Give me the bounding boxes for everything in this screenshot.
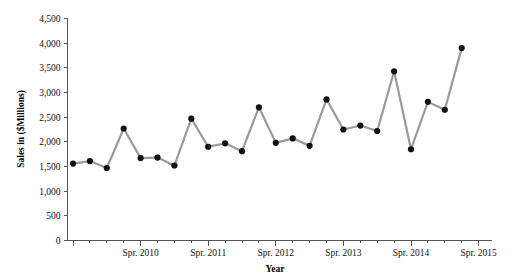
y-axis-ticks	[64, 19, 68, 241]
x-axis-tick-labels: Spr. 2010Spr. 2011Spr. 2012Spr. 2013Spr.…	[122, 248, 497, 258]
data-point-marker	[442, 107, 448, 113]
data-point-marker	[222, 140, 228, 146]
x-tick-label: Spr. 2014	[393, 248, 430, 258]
x-tick-label: Spr. 2011	[190, 248, 226, 258]
chart-figure: 05001,0001,5002,0002,5003,0003,5004,0004…	[0, 0, 520, 280]
x-tick-label: Spr. 2012	[258, 248, 295, 258]
y-tick-label: 500	[46, 211, 61, 221]
data-point-marker	[121, 125, 127, 131]
data-point-marker	[188, 116, 194, 122]
data-point-marker	[459, 45, 465, 51]
data-point-marker	[307, 143, 313, 149]
y-tick-label: 4,000	[39, 39, 61, 49]
data-point-marker	[290, 135, 296, 141]
data-point-marker	[70, 160, 76, 166]
x-axis-group: Spr. 2010Spr. 2011Spr. 2012Spr. 2013Spr.…	[68, 241, 498, 259]
x-axis-title: Year	[266, 264, 286, 274]
y-tick-label: 0	[56, 236, 61, 246]
data-point-marker	[340, 126, 346, 132]
data-point-marker	[154, 155, 160, 161]
data-point-marker	[323, 96, 329, 102]
y-tick-label: 2,500	[39, 113, 61, 123]
y-axis-group: 05001,0001,5002,0002,5003,0003,5004,0004…	[39, 14, 67, 246]
y-axis-tick-labels: 05001,0001,5002,0002,5003,0003,5004,0004…	[39, 14, 61, 246]
data-point-marker	[408, 146, 414, 152]
data-point-marker	[256, 104, 262, 110]
y-tick-label: 3,500	[39, 63, 61, 73]
data-point-marker	[205, 144, 211, 150]
sales-series-markers	[70, 45, 465, 171]
data-point-marker	[357, 122, 363, 128]
sales-series-line	[73, 48, 462, 168]
x-tick-label: Spr. 2015	[460, 248, 497, 258]
y-axis-title: Sales in ($Millions)	[16, 90, 27, 168]
line-chart-plot: 05001,0001,5002,0002,5003,0003,5004,0004…	[0, 0, 520, 280]
data-point-marker	[138, 155, 144, 161]
x-tick-label: Spr. 2013	[325, 248, 362, 258]
data-point-marker	[171, 162, 177, 168]
x-tick-label: Spr. 2010	[122, 248, 159, 258]
data-point-marker	[374, 128, 380, 134]
y-tick-label: 1,500	[39, 162, 61, 172]
data-point-marker	[425, 99, 431, 105]
data-point-marker	[87, 158, 93, 164]
x-axis-ticks	[73, 241, 479, 247]
y-tick-label: 2,000	[39, 137, 61, 147]
data-point-marker	[104, 165, 110, 171]
data-point-marker	[239, 148, 245, 154]
y-tick-label: 1,000	[39, 187, 61, 197]
y-tick-label: 3,000	[39, 88, 61, 98]
y-tick-label: 4,500	[39, 14, 61, 24]
data-point-marker	[273, 140, 279, 146]
series-group	[70, 45, 465, 171]
data-point-marker	[391, 68, 397, 74]
